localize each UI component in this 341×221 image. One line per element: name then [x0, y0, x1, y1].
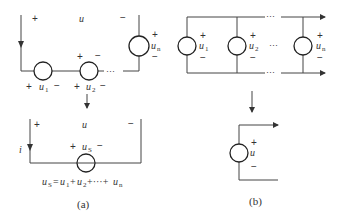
terminal-voltage-label: u	[79, 13, 84, 24]
un-plus: +	[152, 29, 158, 40]
svg-text:u: u	[42, 176, 47, 187]
us-minus: −	[97, 140, 103, 151]
terminal-voltage-label: u	[82, 119, 87, 130]
u-label: u	[250, 147, 255, 158]
svg-text:u: u	[60, 176, 65, 187]
voltage-source-u1-icon	[34, 62, 52, 80]
voltage-source-u2-icon	[80, 62, 98, 80]
svg-text:2: 2	[92, 86, 96, 94]
series-equivalent-circuit: + u − i + u S − u S = u 1 + u 2 +···+ u …	[19, 118, 141, 189]
voltage-source-un-icon	[129, 36, 149, 56]
u2-label: u	[249, 40, 254, 51]
current-arrow-icon	[18, 41, 24, 48]
svg-text:−: −	[251, 161, 257, 172]
caption-a: (a)	[77, 198, 90, 211]
u2-plus: +	[74, 81, 80, 92]
ellipsis-middle: ···	[269, 40, 278, 50]
parallel-equivalent-circuit: + u −	[230, 125, 278, 180]
ellipsis-top: ···	[266, 11, 275, 21]
svg-text:S: S	[88, 146, 92, 154]
terminal-plus: +	[34, 119, 40, 130]
ellipsis-bottom: ···	[266, 67, 275, 77]
circuit-figure: ··· + u − + u 1 − + u 2 − + − + u n −	[0, 0, 341, 221]
svg-text:n: n	[119, 181, 123, 189]
svg-text:u: u	[77, 176, 82, 187]
voltage-source-u2-icon	[228, 37, 246, 55]
terminal-minus: −	[128, 118, 134, 129]
svg-text:−: −	[317, 52, 323, 63]
svg-text:=: =	[53, 176, 59, 187]
svg-text:−: −	[250, 52, 256, 63]
u2-upper-minus: −	[95, 50, 101, 61]
u1-label: u	[199, 40, 204, 51]
ellipsis: ···	[106, 66, 115, 76]
terminal-minus: −	[120, 12, 126, 23]
voltage-source-u1-icon	[178, 37, 196, 55]
voltage-source-u-icon	[230, 144, 248, 162]
un-label: u	[316, 40, 321, 51]
us-plus: +	[70, 141, 76, 152]
current-arrow-icon	[27, 144, 33, 151]
svg-text:+: +	[70, 176, 76, 187]
svg-text:1: 1	[45, 86, 49, 94]
current-label: i	[19, 144, 22, 155]
u2-minus: −	[100, 80, 106, 91]
series-circuit: ··· + u − + u 1 − + u 2 − + − + u n −	[18, 12, 161, 94]
us-label: u	[82, 141, 87, 152]
svg-text:u: u	[113, 176, 118, 187]
voltage-source-un-icon	[294, 37, 312, 55]
u1-label: u	[39, 81, 44, 92]
un-minus: −	[152, 51, 158, 62]
parallel-circuit: ··· ··· ··· + u 1 − + u 2 − + u n −	[178, 11, 326, 77]
terminal-plus: +	[32, 13, 38, 24]
un-label: u	[151, 40, 156, 51]
u2-label: u	[86, 81, 91, 92]
caption-b: (b)	[249, 195, 262, 208]
u1-minus: −	[54, 80, 60, 91]
svg-text:+···+: +···+	[87, 176, 109, 187]
svg-text:−: −	[200, 52, 206, 63]
series-equation: u S = u 1 + u 2 +···+ u n	[42, 176, 123, 189]
u2-upper-plus: +	[77, 51, 83, 62]
svg-text:S: S	[48, 181, 52, 189]
u1-plus: +	[26, 81, 32, 92]
